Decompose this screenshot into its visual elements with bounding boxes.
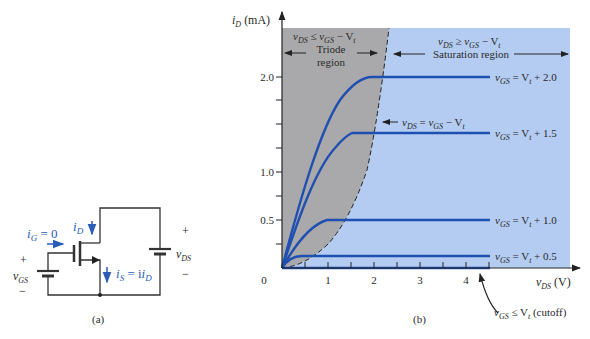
x-tick-labels: 1 2 3 4 — [325, 274, 469, 286]
vgs-minus: − — [19, 284, 26, 298]
svg-text:1: 1 — [325, 274, 331, 286]
triode-label-2: region — [317, 56, 346, 68]
circuit-diagram — [37, 208, 171, 297]
caption-a: (a) — [92, 313, 105, 326]
is-label: iS = iiD — [116, 266, 152, 283]
vds-plus: + — [182, 224, 189, 238]
y-tick-labels: 0 0.5 1.0 1.5 2.0 — [260, 71, 274, 286]
figure: iG = 0 iD iS = iiD + vGS − + vDS − (a) — [0, 0, 590, 339]
source-arrow — [92, 256, 100, 264]
svg-text:2: 2 — [371, 274, 377, 286]
ground-node — [98, 293, 102, 297]
caption-b: (b) — [413, 313, 426, 326]
x-axis-label: vDS (V) — [536, 275, 571, 291]
drain-wire — [100, 208, 160, 249]
vds-label: vDS — [176, 247, 191, 263]
svg-text:1.0: 1.0 — [260, 166, 274, 178]
triode-label-1: Triode — [317, 43, 346, 55]
cutoff-label: vGS ≤ Vt (cutoff) — [494, 306, 567, 321]
svg-text:4: 4 — [463, 274, 469, 286]
saturation-label: Saturation region — [433, 48, 510, 60]
ig-label: iG = 0 — [27, 226, 57, 243]
svg-text:2.0: 2.0 — [260, 71, 274, 83]
y-ticks — [276, 77, 282, 244]
vds-minus: − — [182, 267, 189, 281]
vgs-plus: + — [20, 253, 27, 267]
id-label: iD — [73, 219, 84, 236]
vgs-label: vGS — [13, 269, 28, 285]
svg-text:0.5: 0.5 — [260, 214, 274, 226]
svg-text:3: 3 — [417, 274, 423, 286]
y-axis-label: iD (mA) — [232, 13, 270, 29]
svg-text:0: 0 — [261, 274, 267, 286]
